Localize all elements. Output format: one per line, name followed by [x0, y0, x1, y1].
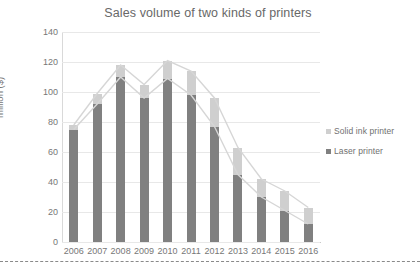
gridline [62, 242, 320, 243]
line-solid-ink-printer [74, 61, 309, 208]
legend-item[interactable]: Laser printer [326, 146, 418, 156]
legend-swatch-icon [326, 129, 331, 134]
line-laser-printer [74, 77, 309, 224]
legend-label: Laser printer [334, 146, 383, 156]
x-tick-label: 2016 [298, 246, 318, 256]
x-tick-label: 2009 [134, 246, 154, 256]
chart-legend: Solid ink printerLaser printer [326, 126, 418, 166]
y-tick-label: 140 [28, 27, 58, 37]
legend-item[interactable]: Solid ink printer [326, 126, 418, 136]
x-tick-label: 2011 [181, 246, 200, 256]
x-tick-label: 2008 [111, 246, 131, 256]
x-axis-tick-labels: 2006200720082009201020112012201320142015… [62, 246, 320, 262]
y-tick-label: 60 [28, 147, 58, 157]
y-axis-title: million ($) [0, 77, 5, 118]
x-tick-label: 2013 [228, 246, 248, 256]
plot-area [62, 32, 320, 242]
y-axis-tick-labels: 020406080100120140 [26, 32, 58, 242]
x-tick-label: 2006 [64, 246, 84, 256]
y-tick-label: 40 [28, 177, 58, 187]
legend-label: Solid ink printer [334, 126, 394, 136]
legend-swatch-icon [326, 149, 331, 154]
x-tick-label: 2012 [204, 246, 224, 256]
y-tick-label: 20 [28, 207, 58, 217]
bottom-divider [0, 261, 420, 262]
x-tick-label: 2014 [251, 246, 271, 256]
chart-figure: Sales volume of two kinds of printers mi… [0, 0, 420, 268]
x-tick-label: 2007 [87, 246, 107, 256]
x-tick-label: 2015 [275, 246, 295, 256]
series-connector-lines [62, 32, 320, 242]
y-tick-label: 80 [28, 117, 58, 127]
y-tick-label: 120 [28, 57, 58, 67]
x-tick-label: 2010 [158, 246, 178, 256]
y-tick-label: 0 [28, 237, 58, 247]
chart-title: Sales volume of two kinds of printers [58, 6, 358, 20]
y-tick-label: 100 [28, 87, 58, 97]
